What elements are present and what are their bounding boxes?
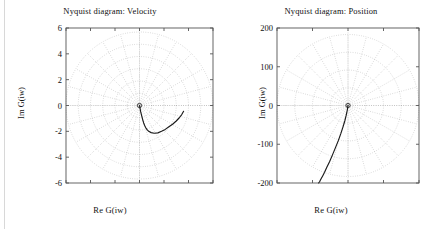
grid-spoke bbox=[287, 70, 348, 106]
y-tick-label: 100 bbox=[260, 62, 273, 72]
panel-position: Nyquist diagram: Position Im G(iw) Re G(… bbox=[221, 0, 441, 229]
grid-spoke bbox=[69, 86, 140, 105]
y-tick-label: 6 bbox=[58, 23, 62, 33]
data-curve bbox=[140, 106, 184, 134]
y-tick-label: -6 bbox=[55, 178, 62, 188]
grid-spoke bbox=[140, 69, 204, 106]
y-tick-label: -200 bbox=[257, 178, 273, 188]
grid-spoke bbox=[76, 69, 140, 106]
grid-spoke bbox=[348, 87, 417, 105]
grid-spoke bbox=[103, 42, 140, 106]
grid-spoke bbox=[140, 54, 192, 106]
grid-spoke bbox=[287, 106, 348, 142]
y-tick-label: 4 bbox=[58, 49, 63, 59]
grid-spoke bbox=[298, 55, 348, 105]
grid-spoke bbox=[348, 44, 384, 105]
grid-spoke bbox=[279, 106, 348, 124]
grid-spoke bbox=[348, 55, 398, 105]
y-tick-label: 0 bbox=[58, 101, 62, 111]
grid-spoke bbox=[69, 106, 140, 125]
y-tick-label: -4 bbox=[55, 152, 63, 162]
grid-spoke bbox=[88, 106, 140, 158]
grid-spoke bbox=[298, 106, 348, 156]
grid-spoke bbox=[140, 35, 159, 106]
y-tick-label: 2 bbox=[58, 75, 62, 85]
grid-spoke bbox=[348, 70, 409, 106]
grid-spoke bbox=[330, 37, 348, 106]
grid-spoke bbox=[88, 54, 140, 106]
panel-velocity-plot: 6420-2-4-6 bbox=[0, 0, 220, 229]
grid-spoke bbox=[140, 106, 204, 143]
y-axis-ticks: 6420-2-4-6 bbox=[55, 23, 213, 188]
grid-spoke bbox=[140, 42, 177, 106]
grid-spoke bbox=[103, 106, 140, 170]
grid-spoke bbox=[348, 37, 366, 106]
grid-spoke bbox=[140, 106, 177, 170]
nyquist-figure: Nyquist diagram: Velocity Im G(iw) Re G(… bbox=[0, 0, 441, 229]
grid-spoke bbox=[140, 106, 192, 158]
y-tick-label: -100 bbox=[257, 139, 273, 149]
y-tick-label: 0 bbox=[269, 101, 273, 111]
grid-spoke bbox=[76, 106, 140, 143]
data-curve bbox=[319, 106, 348, 184]
panel-position-plot: 2001000-100-200 bbox=[221, 0, 441, 229]
grid-spoke bbox=[279, 87, 348, 105]
panel-velocity: Nyquist diagram: Velocity Im G(iw) Re G(… bbox=[0, 0, 220, 229]
y-tick-label: 200 bbox=[260, 23, 273, 33]
y-tick-label: -2 bbox=[55, 126, 62, 136]
grid-spoke bbox=[313, 44, 349, 105]
